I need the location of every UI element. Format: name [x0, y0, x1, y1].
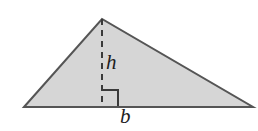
triangle-shape	[24, 19, 253, 107]
height-label: h	[106, 52, 117, 73]
triangle-figure: h b	[0, 0, 258, 131]
base-label: b	[120, 106, 131, 127]
